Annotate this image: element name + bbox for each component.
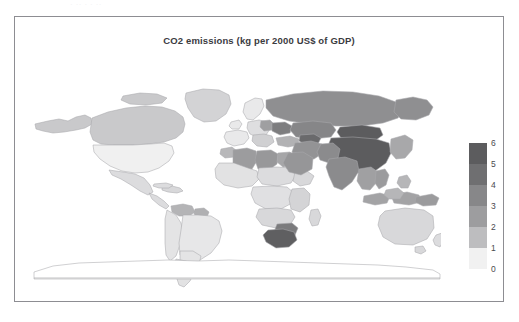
legend-tick-6: 6 <box>491 139 496 148</box>
map-landmasses <box>34 89 441 287</box>
region-canada <box>90 106 185 145</box>
legend-tick-4: 4 <box>491 181 496 190</box>
region-alaska <box>35 115 92 133</box>
region-vietnam <box>375 169 389 189</box>
region-central-africa <box>251 186 294 209</box>
region-russia <box>266 91 403 126</box>
region-scandinavia <box>243 98 264 120</box>
region-mexico <box>109 170 153 195</box>
legend: 6543210 <box>455 129 501 281</box>
region-myanmar-thailand <box>357 167 378 190</box>
region-cuba <box>153 183 173 188</box>
legend-band-1-2 <box>469 227 487 248</box>
region-russia-far-east <box>394 97 433 120</box>
clipped-header-text: · ·· · · ·· <box>70 0 460 9</box>
legend-tick-2: 2 <box>491 223 496 232</box>
legend-tick-5: 5 <box>491 160 496 169</box>
region-south-africa <box>263 229 297 248</box>
legend-tick-3: 3 <box>491 202 496 211</box>
legend-band-5-6 <box>469 143 487 164</box>
figure-frame: CO2 emissions (kg per 2000 US$ of GDP) <box>14 16 504 302</box>
region-korea-japan <box>390 135 413 159</box>
world-choropleth-map <box>33 65 441 289</box>
region-canada-arctic-islands <box>121 93 167 105</box>
legend-band-0-1 <box>469 248 487 269</box>
region-madagascar <box>309 209 321 226</box>
legend-tick-0: 0 <box>491 265 496 274</box>
legend-band-4-5 <box>469 164 487 185</box>
legend-band-2-3 <box>469 206 487 227</box>
region-new-zealand <box>433 233 441 247</box>
chart-title: CO2 emissions (kg per 2000 US$ of GDP) <box>15 35 503 46</box>
map-svg <box>33 65 441 289</box>
region-india <box>326 157 359 190</box>
legend-band-3-4 <box>469 185 487 206</box>
region-greenland <box>185 89 231 122</box>
region-borneo <box>384 188 404 199</box>
region-antarctica <box>34 260 440 279</box>
region-tasmania <box>415 246 426 254</box>
legend-colorbar <box>469 143 487 269</box>
region-iberia-france <box>224 130 249 146</box>
region-philippines <box>397 175 411 188</box>
region-balkans-italy <box>252 134 274 147</box>
legend-tick-1: 1 <box>491 244 496 253</box>
legend-tick-labels: 6543210 <box>491 129 507 283</box>
region-east-africa <box>289 188 310 212</box>
region-central-america <box>149 193 169 209</box>
region-united-states <box>93 143 174 173</box>
region-ukraine <box>272 122 292 135</box>
region-british-isles <box>229 120 242 129</box>
region-australia <box>378 208 434 245</box>
